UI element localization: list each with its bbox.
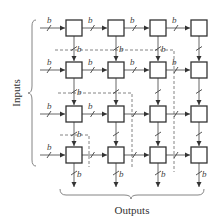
processing-element: [150, 62, 166, 78]
bus-width-label: b: [130, 57, 135, 67]
processing-element: [191, 106, 207, 122]
bus-width-label: b: [119, 44, 124, 54]
processing-element: [191, 147, 207, 163]
processing-element: [191, 62, 207, 78]
bus-width-label: b: [161, 169, 166, 179]
bus-width-label: b: [77, 129, 82, 139]
systolic-array-diagram: bbbbbbbbbbbbbbbbbbbb Inputs Outputs: [0, 0, 218, 223]
bus-width-label: b: [172, 57, 177, 67]
bus-width-label: b: [130, 15, 135, 25]
bus-width-label: b: [202, 169, 207, 179]
processing-elements: [66, 20, 207, 163]
processing-element: [191, 20, 207, 36]
bus-width-label: b: [172, 15, 177, 25]
processing-element: [150, 106, 166, 122]
outputs-brace: [60, 189, 204, 199]
processing-element: [150, 147, 166, 163]
inputs-label: Inputs: [10, 79, 22, 107]
bus-width-label: b: [47, 15, 52, 25]
processing-element: [108, 106, 124, 122]
processing-element: [66, 147, 82, 163]
processing-element: [66, 106, 82, 122]
bus-width-label: b: [88, 15, 93, 25]
bus-width-label: b: [119, 169, 124, 179]
bus-width-label: b: [47, 142, 52, 152]
bus-width-label: b: [77, 44, 82, 54]
processing-element: [108, 147, 124, 163]
processing-element: [66, 62, 82, 78]
inputs-brace: [28, 20, 36, 166]
bus-width-label: b: [161, 44, 166, 54]
bus-width-label: b: [77, 87, 82, 97]
bus-width-label: b: [47, 101, 52, 111]
processing-element: [108, 62, 124, 78]
processing-element: [108, 20, 124, 36]
bus-width-label: b: [47, 57, 52, 67]
bus-width-label: b: [88, 101, 93, 111]
bus-width-label: b: [77, 169, 82, 179]
processing-element: [66, 20, 82, 36]
bus-width-label: b: [88, 57, 93, 67]
processing-element: [150, 20, 166, 36]
outputs-label: Outputs: [115, 204, 150, 216]
